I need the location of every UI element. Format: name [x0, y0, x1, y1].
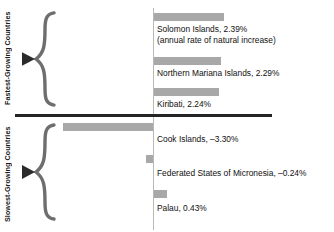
section-divider-line: [15, 114, 272, 117]
bar-label-northern-mariana-islands: Northern Mariana Islands, 2.29%: [157, 68, 279, 79]
bar-palau: [154, 190, 167, 198]
bar-kiribati: [154, 88, 219, 96]
bar-label-solomon-islands: Solomon Islands, 2.39%: [157, 24, 247, 35]
bar-sublabel-solomon-islands: (annual rate of natural increase): [157, 35, 276, 46]
bar-federated-states-of-micronesia: [146, 155, 153, 163]
bar-label-palau: Palau, 0.43%: [157, 203, 207, 214]
bar-cook-islands: [63, 123, 153, 131]
bar-label-federated-states-of-micronesia: Federated States of Micronesia, –0.24%: [157, 168, 306, 179]
bar-solomon-islands: [154, 13, 224, 21]
grouped-bar-chart: Fastest-Growing Countries Slowest-Growin…: [0, 0, 334, 232]
bar-northern-mariana-islands: [154, 57, 221, 65]
bar-label-cook-islands: Cook Islands, –3.30%: [157, 134, 238, 145]
bar-label-kiribati: Kiribati, 2.24%: [157, 99, 211, 110]
plot-area: Solomon Islands, 2.39% (annual rate of n…: [0, 0, 334, 232]
